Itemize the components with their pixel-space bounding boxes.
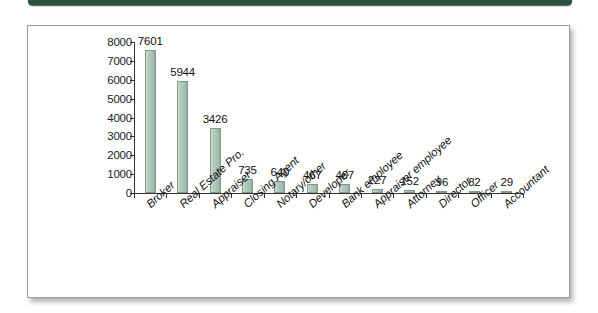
header-band-fade xyxy=(28,5,572,8)
bar[interactable] xyxy=(177,81,188,193)
bar-value-label: 3426 xyxy=(203,113,228,125)
bar-chart: 800070006000500040003000200010000 760159… xyxy=(28,26,571,299)
bar-value-label: 7601 xyxy=(138,35,163,47)
bar[interactable] xyxy=(145,50,156,193)
bar-value-label: 29 xyxy=(501,176,513,188)
figure-panel: 800070006000500040003000200010000 760159… xyxy=(27,25,570,298)
bar-value-label: 5944 xyxy=(170,66,195,78)
